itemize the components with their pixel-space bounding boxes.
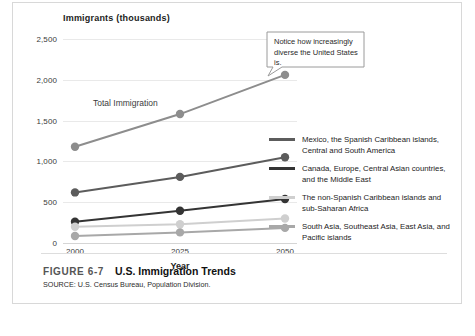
y-tick-label: 2,500 xyxy=(36,35,57,44)
data-point xyxy=(176,207,184,215)
callout-text: Notice how increasingly diverse the Unit… xyxy=(274,37,360,69)
y-tick-label: 2,000 xyxy=(36,75,57,84)
data-point xyxy=(176,173,184,181)
legend-swatch xyxy=(269,225,295,228)
data-point xyxy=(176,228,184,236)
y-axis-title: Immigrants (thousands) xyxy=(63,13,170,23)
data-point xyxy=(71,143,79,151)
gridline xyxy=(63,243,297,244)
legend-label: Mexico, the Spanish Caribbean islands, C… xyxy=(302,134,451,156)
series-annotation: Total Immigration xyxy=(93,98,158,108)
legend-swatch xyxy=(269,196,295,199)
legend-item[interactable]: South Asia, Southeast Asia, East Asia, a… xyxy=(269,221,451,243)
x-tick-label: 2000 xyxy=(66,247,84,256)
figure-number: FIGURE 6-7 xyxy=(43,266,104,277)
caption-divider xyxy=(41,253,447,254)
legend-label: South Asia, Southeast Asia, East Asia, a… xyxy=(302,221,451,243)
figure-title: U.S. Immigration Trends xyxy=(115,265,236,277)
legend-item[interactable]: Canada, Europe, Central Asian countries,… xyxy=(269,163,451,185)
legend-swatch xyxy=(269,138,295,141)
legend-item[interactable]: Mexico, the Spanish Caribbean islands, C… xyxy=(269,134,451,156)
data-point xyxy=(176,110,184,118)
y-tick-label: 0 xyxy=(52,239,57,248)
figure-caption: FIGURE 6-7 U.S. Immigration Trends SOURC… xyxy=(43,265,236,289)
legend-item[interactable]: The non-Spanish Caribbean islands and su… xyxy=(269,192,451,214)
y-tick-label: 500 xyxy=(43,198,57,207)
chart-plot-area: 05001,0001,5002,0002,500 200020252050 To… xyxy=(63,39,297,243)
figure-source: SOURCE: U.S. Census Bureau, Population D… xyxy=(43,280,236,289)
callout-box: Notice how increasingly diverse the Unit… xyxy=(266,31,365,77)
data-point xyxy=(71,232,79,240)
legend-label: Canada, Europe, Central Asian countries,… xyxy=(302,163,451,185)
data-point xyxy=(71,222,79,230)
x-tick-label: 2025 xyxy=(171,247,189,256)
data-point xyxy=(71,188,79,196)
legend-label: The non-Spanish Caribbean islands and su… xyxy=(302,192,451,214)
chart-legend: Mexico, the Spanish Caribbean islands, C… xyxy=(269,134,451,251)
chart-series-layer xyxy=(63,39,297,243)
legend-swatch xyxy=(269,167,295,170)
y-tick-label: 1,500 xyxy=(36,116,57,125)
data-point xyxy=(176,220,184,228)
y-tick-label: 1,000 xyxy=(36,157,57,166)
figure-container: Immigrants (thousands) 05001,0001,5002,0… xyxy=(12,2,462,304)
